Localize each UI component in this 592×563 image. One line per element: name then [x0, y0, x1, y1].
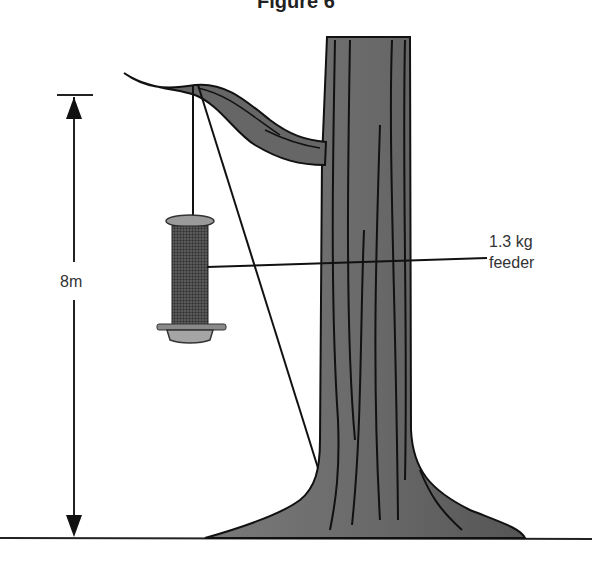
arrow-up-icon	[66, 97, 82, 119]
bird-feeder	[157, 215, 226, 343]
arrow-down-icon	[66, 515, 82, 537]
feeder-name-label: feeder	[489, 253, 534, 273]
height-label: 8m	[60, 272, 82, 292]
tree-branch	[124, 73, 326, 165]
feeder-mass-label: 1.3 kg	[489, 232, 533, 252]
tree-feeder-diagram	[0, 0, 592, 563]
height-dimension	[57, 95, 93, 537]
